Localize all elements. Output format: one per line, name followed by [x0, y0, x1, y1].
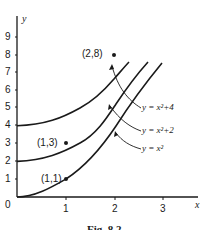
point-label-1-1: (1,1): [41, 173, 62, 184]
x-tick-label-2: 2: [112, 203, 118, 214]
y-axis-label: y: [21, 13, 27, 24]
point-label-1-3: (1,3): [37, 137, 58, 148]
point-label-2-8: (2,8): [82, 48, 103, 59]
y-tick-label-3: 3: [5, 137, 11, 148]
legend-x2-plus-2: y = x²+2: [141, 125, 174, 135]
y-tick-label-6: 6: [5, 84, 11, 95]
y-tick-label-5: 5: [5, 101, 11, 112]
point-2-8: [112, 53, 116, 57]
point-1-1: [64, 177, 68, 181]
curve-x2-plus-4: [17, 62, 129, 126]
origin-label: 0: [5, 199, 11, 210]
y-tick-label-4: 4: [5, 119, 11, 130]
y-tick-label-2: 2: [5, 155, 11, 166]
legend-x2: y = x²: [141, 143, 164, 153]
y-tick-label-1: 1: [5, 173, 11, 184]
x-tick-label-3: 3: [160, 203, 166, 214]
legend-x2-plus-4: y = x²+4: [141, 102, 174, 112]
y-tick-label-8: 8: [5, 49, 11, 60]
chart: 1 2 3 4 5 6 7 8 9 0 1 2 3 y x (2,8) (1,3…: [0, 0, 206, 230]
figure-caption: Fig. 8.2: [87, 223, 122, 230]
curve-x2: [17, 63, 162, 197]
x-axis-label: x: [194, 199, 200, 210]
y-tick-label-7: 7: [5, 66, 11, 77]
x-tick-label-1: 1: [63, 203, 69, 214]
point-1-3: [64, 141, 68, 145]
y-tick-label-9: 9: [5, 31, 11, 42]
